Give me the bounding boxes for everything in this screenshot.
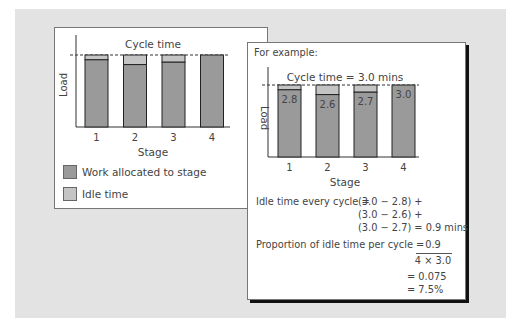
legend-label-work: Work allocated to stage <box>82 166 206 178</box>
bar-idle-stage-1 <box>278 85 301 90</box>
data-label: 2.7 <box>358 96 374 107</box>
chart-1: Cycle timeLoad1234Stage <box>55 28 269 158</box>
legend-item-idle: Idle time <box>63 187 128 201</box>
idle-time-label: Idle time every cycle = <box>256 196 370 207</box>
proportion-label: Proportion of idle time per cycle = <box>256 239 424 250</box>
data-label: 2.8 <box>282 94 298 105</box>
fraction-bar <box>416 253 452 254</box>
x-tick-label: 3 <box>170 132 176 143</box>
fraction-denominator: 4 × 3.0 <box>415 255 451 266</box>
x-tick-label: 1 <box>93 132 99 143</box>
idle-line-2: (3.0 − 2.6) + <box>358 209 423 220</box>
panel-general-chart: Cycle timeLoad1234Stage Work allocated t… <box>54 27 268 209</box>
chart-title: Cycle time <box>125 38 181 50</box>
x-tick-label: 4 <box>209 132 215 143</box>
bar-work-stage-2 <box>124 65 147 127</box>
bar-idle-stage-3 <box>354 85 377 92</box>
legend-item-work: Work allocated to stage <box>63 165 206 179</box>
legend-swatch-idle <box>63 187 77 201</box>
y-axis-label: Load <box>259 106 270 130</box>
chart-2: Cycle time = 3.0 minsLoad12.822.632.743.… <box>248 43 467 188</box>
data-label: 3.0 <box>396 89 412 100</box>
bar-work-stage-4 <box>201 55 224 127</box>
x-tick-label: 4 <box>400 162 406 173</box>
bar-work-stage-3 <box>162 62 185 127</box>
idle-line-3: (3.0 − 2.7) = 0.9 mins <box>358 222 468 233</box>
bar-idle-stage-2 <box>316 85 339 95</box>
data-label: 2.6 <box>320 99 336 110</box>
fraction-numerator: 0.9 <box>425 239 441 250</box>
bar-idle-stage-2 <box>124 55 147 65</box>
bar-idle-stage-1 <box>85 55 108 60</box>
x-axis-label: Stage <box>138 146 168 158</box>
bar-work-stage-1 <box>85 60 108 127</box>
x-axis-label: Stage <box>330 176 360 188</box>
bar-idle-stage-3 <box>162 55 185 62</box>
idle-line-1: (3.0 − 2.8) + <box>358 196 423 207</box>
y-axis-label: Load <box>58 73 69 97</box>
x-tick-label: 2 <box>132 132 138 143</box>
x-tick-label: 2 <box>324 162 330 173</box>
chart-title: Cycle time = 3.0 mins <box>287 71 404 83</box>
panel-example: For example: Cycle time = 3.0 minsLoad12… <box>247 42 466 300</box>
x-tick-label: 1 <box>286 162 292 173</box>
legend-swatch-work <box>63 165 77 179</box>
result-decimal: = 0.075 <box>407 271 446 282</box>
result-percent: = 7.5% <box>407 284 443 295</box>
x-tick-label: 3 <box>362 162 368 173</box>
legend-label-idle: Idle time <box>82 188 128 200</box>
